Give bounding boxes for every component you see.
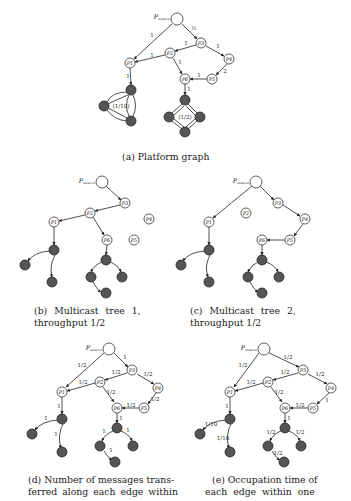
svg-text:P6: P6 bbox=[113, 405, 121, 411]
svg-text:1/2: 1/2 bbox=[107, 389, 116, 395]
messages-graph: Psource P3 P2 P1 P4 P5 P6 1/2 1 1/2 1/2 … bbox=[27, 343, 163, 467]
dark-node bbox=[126, 85, 136, 95]
svg-text:P3: P3 bbox=[299, 367, 307, 373]
svg-text:P2: P2 bbox=[264, 379, 272, 385]
multicast-tree-2: Psource P3 P2 P1 P4 P5 P6 bbox=[176, 176, 310, 298]
svg-text:1: 1 bbox=[54, 431, 58, 437]
svg-text:P6: P6 bbox=[103, 237, 111, 243]
dark-node bbox=[180, 127, 190, 137]
svg-text:1/2: 1/2 bbox=[144, 371, 153, 377]
svg-text:P3: P3 bbox=[121, 200, 129, 206]
caption-b-line2: throughput 1/2 bbox=[34, 317, 105, 329]
svg-text:½: ½ bbox=[191, 25, 196, 31]
svg-text:1: 1 bbox=[178, 59, 182, 65]
dark-node bbox=[164, 112, 174, 122]
platform-graph: Psource P3 P4 P2 P1 P6 P5 (1/10) (1/2) 1… bbox=[99, 13, 234, 137]
svg-text:P1: P1 bbox=[226, 389, 234, 395]
caption-d-line2: ferred along each edge within bbox=[28, 486, 178, 498]
svg-text:P1: P1 bbox=[58, 389, 66, 395]
svg-text:1/2: 1/2 bbox=[275, 389, 284, 395]
svg-text:1: 1 bbox=[126, 73, 130, 79]
dark-node bbox=[126, 116, 136, 126]
svg-text:P4: P4 bbox=[154, 385, 162, 391]
svg-text:P5: P5 bbox=[140, 405, 148, 411]
caption-c-line1: (c) Multicast tree 2, bbox=[190, 305, 296, 317]
svg-text:2: 2 bbox=[223, 68, 227, 74]
svg-text:P5: P5 bbox=[208, 76, 216, 82]
svg-text:P1: P1 bbox=[126, 60, 134, 66]
svg-text:1: 1 bbox=[150, 32, 154, 38]
svg-text:1/10: 1/10 bbox=[217, 435, 230, 441]
svg-text:(1/10): (1/10) bbox=[113, 103, 130, 109]
caption-b-line1: (b) Multicast tree 1, bbox=[34, 305, 141, 317]
svg-text:P4: P4 bbox=[301, 216, 309, 222]
svg-text:P2: P2 bbox=[166, 50, 174, 56]
svg-text:Psource: Psource bbox=[232, 177, 249, 185]
multicast-tree-1: Psource P3 P2 P1 P6 P4 P5 bbox=[20, 176, 154, 298]
svg-text:P5: P5 bbox=[130, 237, 138, 243]
figure-canvas: Psource P3 P4 P2 P1 P6 P5 (1/10) (1/2) 1… bbox=[0, 0, 351, 501]
svg-text:1: 1 bbox=[44, 415, 48, 421]
svg-text:1/2: 1/2 bbox=[296, 429, 305, 435]
svg-text:Psource: Psource bbox=[85, 344, 102, 352]
svg-text:1/2: 1/2 bbox=[239, 362, 248, 368]
svg-text:1/10: 1/10 bbox=[205, 421, 218, 427]
svg-text:1: 1 bbox=[57, 403, 61, 409]
svg-text:1/2: 1/2 bbox=[247, 379, 256, 385]
svg-text:1/2: 1/2 bbox=[267, 429, 276, 435]
node-label-p-source: Psource bbox=[153, 13, 170, 21]
svg-text:P2: P2 bbox=[96, 379, 104, 385]
svg-text:1/2: 1/2 bbox=[127, 402, 136, 408]
caption-e-line1: (e) Occupation time of bbox=[212, 474, 318, 486]
svg-text:1: 1 bbox=[225, 403, 229, 409]
svg-text:Psource: Psource bbox=[78, 177, 95, 185]
svg-text:P3: P3 bbox=[128, 367, 136, 373]
svg-text:1/2: 1/2 bbox=[112, 369, 121, 375]
svg-text:1: 1 bbox=[119, 415, 123, 421]
svg-text:P4: P4 bbox=[327, 385, 335, 391]
node-p-source bbox=[171, 13, 183, 25]
svg-text:1: 1 bbox=[184, 40, 188, 46]
svg-text:P3: P3 bbox=[274, 200, 282, 206]
svg-text:1/2: 1/2 bbox=[296, 402, 305, 408]
svg-text:P2: P2 bbox=[242, 210, 250, 216]
svg-text:P4: P4 bbox=[225, 56, 233, 62]
svg-text:(1/2): (1/2) bbox=[178, 114, 191, 120]
svg-text:1/2: 1/2 bbox=[316, 371, 325, 377]
dark-node bbox=[195, 112, 205, 122]
svg-text:P2: P2 bbox=[86, 210, 94, 216]
svg-text:P1: P1 bbox=[205, 219, 213, 225]
svg-text:1: 1 bbox=[102, 428, 106, 434]
svg-text:1/2: 1/2 bbox=[78, 362, 87, 368]
caption-c-line2: throughput 1/2 bbox=[190, 317, 261, 329]
caption-a: (a) Platform graph bbox=[122, 151, 209, 163]
caption-d-line1: (d) Number of messages trans- bbox=[28, 474, 174, 486]
svg-text:P6: P6 bbox=[181, 76, 189, 82]
occupation-graph: Psource P3 P2 P1 P4 P5 P6 1/2 1/2 1/2 1/… bbox=[195, 343, 336, 467]
svg-text:P6: P6 bbox=[258, 237, 266, 243]
dark-node bbox=[180, 95, 190, 105]
svg-text:1: 1 bbox=[109, 447, 113, 453]
svg-text:1: 1 bbox=[187, 86, 191, 92]
dark-node bbox=[99, 101, 109, 111]
svg-text:1: 1 bbox=[287, 415, 291, 421]
svg-text:1/2: 1/2 bbox=[284, 354, 293, 360]
svg-text:1: 1 bbox=[126, 427, 130, 433]
svg-text:P5: P5 bbox=[309, 405, 317, 411]
svg-text:P3: P3 bbox=[197, 40, 205, 46]
svg-text:P6: P6 bbox=[281, 405, 289, 411]
svg-text:1: 1 bbox=[216, 43, 220, 49]
svg-text:P5: P5 bbox=[286, 237, 294, 243]
caption-e-line2: each edge within one bbox=[205, 486, 315, 498]
svg-text:1: 1 bbox=[197, 72, 201, 78]
svg-text:1/2: 1/2 bbox=[281, 369, 290, 375]
svg-text:1/2: 1/2 bbox=[79, 379, 88, 385]
svg-text:P1: P1 bbox=[50, 219, 58, 225]
svg-text:Psource: Psource bbox=[240, 344, 257, 352]
svg-text:1/2: 1/2 bbox=[274, 450, 283, 456]
svg-text:1: 1 bbox=[325, 397, 329, 403]
svg-text:1/2: 1/2 bbox=[151, 396, 160, 402]
svg-text:P4: P4 bbox=[145, 216, 153, 222]
svg-text:1: 1 bbox=[123, 354, 127, 360]
svg-text:1: 1 bbox=[150, 52, 154, 58]
